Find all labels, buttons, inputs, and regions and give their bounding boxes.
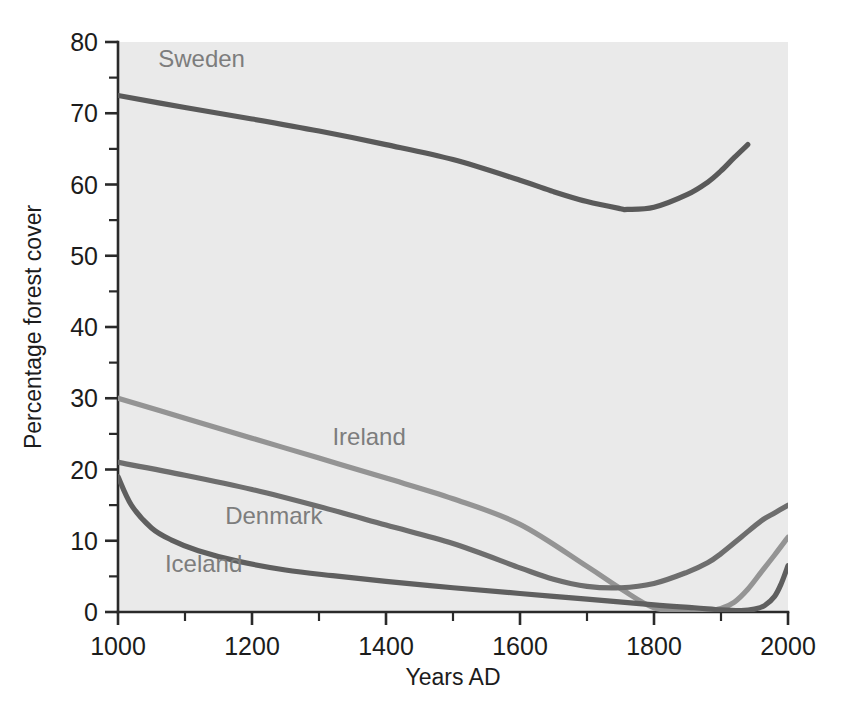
y-tick-label: 30	[70, 384, 98, 412]
chart-canvas: 01020304050607080 1000120014001600180020…	[0, 0, 852, 712]
x-tick-label: 1400	[358, 632, 414, 660]
x-tick-label: 2000	[760, 632, 816, 660]
y-tick-label: 70	[70, 99, 98, 127]
x-axis-title: Years AD	[405, 664, 500, 690]
series-label-ireland: Ireland	[332, 423, 405, 450]
y-tick-label: 40	[70, 313, 98, 341]
y-axis-ticks	[105, 42, 118, 612]
x-tick-label: 1000	[90, 632, 146, 660]
series-label-iceland: Iceland	[165, 550, 242, 577]
y-tick-label: 60	[70, 171, 98, 199]
x-axis-ticks	[118, 612, 788, 625]
y-tick-label: 20	[70, 456, 98, 484]
series-label-denmark: Denmark	[225, 502, 323, 529]
y-tick-label: 10	[70, 527, 98, 555]
x-tick-label: 1200	[224, 632, 280, 660]
series-label-sweden: Sweden	[158, 45, 245, 72]
x-axis-tick-labels: 100012001400160018002000	[90, 632, 816, 660]
plot-background	[118, 42, 788, 612]
x-tick-label: 1600	[492, 632, 548, 660]
y-axis-tick-labels: 01020304050607080	[70, 28, 98, 626]
forest-cover-chart-figure: 01020304050607080 1000120014001600180020…	[0, 0, 852, 712]
y-tick-label: 50	[70, 242, 98, 270]
y-axis-title: Percentage forest cover	[20, 205, 46, 450]
y-tick-label: 80	[70, 28, 98, 56]
x-tick-label: 1800	[626, 632, 682, 660]
y-tick-label: 0	[84, 598, 98, 626]
